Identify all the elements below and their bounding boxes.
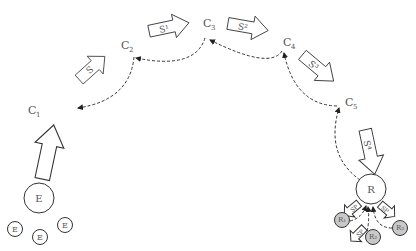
node-c1: C 1 [28, 104, 40, 119]
block-arrow-s4: S³ [295, 46, 342, 90]
node-c5-sub: 5 [353, 103, 357, 111]
node-c5: C 5 [345, 96, 357, 111]
dashed-arc-c4-c3 [210, 40, 282, 58]
node-e-bottom-label: E [37, 233, 43, 242]
node-e-right-label: E [62, 221, 68, 230]
block-arrow-s2-label: S¹ [158, 23, 170, 35]
diagram-canvas: C 1 C 2 C 3 C 4 C 5 S S¹ S² S³ [0, 0, 416, 251]
end-cluster: SP SP SP R R₁ R₂ R₃ [335, 174, 408, 247]
node-c1-sub: 1 [36, 111, 40, 119]
node-e-left-label: E [12, 225, 18, 234]
block-arrow-s2: S¹ [147, 11, 192, 43]
node-e-main-label: E [35, 193, 42, 204]
block-arrow-s5: S⁴ [353, 127, 387, 177]
node-c4-sub: 4 [291, 43, 296, 51]
node-c3: C 3 [203, 17, 215, 32]
node-c3-sub: 3 [211, 24, 215, 32]
node-r-main-label: R [367, 184, 375, 195]
node-r2-label: R₂ [369, 233, 377, 241]
dashed-arc-r-c5 [335, 108, 360, 180]
block-arrow-s1: S [71, 48, 113, 89]
node-r3-label: R₃ [396, 224, 404, 232]
node-c2-sub: 2 [129, 46, 133, 54]
node-r1-label: R₁ [338, 216, 346, 224]
node-c4: C 4 [283, 36, 296, 51]
node-c2: C 2 [121, 39, 133, 54]
block-arrow-up [28, 122, 68, 182]
block-arrow-s3: S² [226, 12, 270, 43]
start-cluster: E E E E [8, 183, 73, 245]
dashed-arc-c3-c2 [136, 38, 205, 61]
